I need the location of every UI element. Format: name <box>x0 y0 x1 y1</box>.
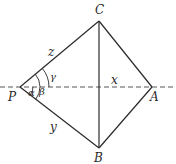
point-label-p: P <box>7 90 17 104</box>
segment-label-x: x <box>111 73 118 87</box>
point-label-a: A <box>149 90 159 104</box>
segment-label-z: z <box>47 45 55 59</box>
segment-ca <box>99 21 152 87</box>
segment-label-y: y <box>49 120 57 134</box>
segment-pc <box>20 21 99 87</box>
segment-ab <box>99 87 152 148</box>
angle-arc-gamma <box>42 68 49 87</box>
angle-label-gamma: γ <box>50 71 56 82</box>
geometry-diagram: C P A B z y x γ β α <box>0 0 176 164</box>
angle-label-alpha: α <box>28 87 35 98</box>
point-label-b: B <box>93 151 103 164</box>
angle-label-beta: β <box>38 86 45 97</box>
point-label-c: C <box>95 3 104 17</box>
